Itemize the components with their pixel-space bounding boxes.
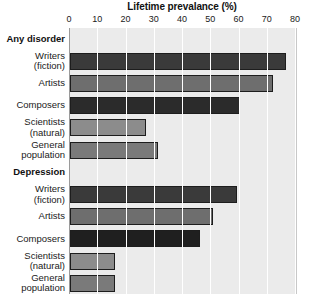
bar [70,97,240,114]
bar [70,208,213,225]
gridline [97,28,98,294]
gridline [182,28,183,294]
bar [70,275,115,292]
bar [70,53,286,70]
x-tick-label: 60 [233,14,243,24]
x-tick-label: 50 [205,14,215,24]
gridline [295,28,296,294]
bar-chart: Lifetime prevalance (%) 0102030405060708… [0,0,313,298]
bar-category-label: Writers (fiction) [34,51,65,72]
bar-category-label: Scientists (natural) [24,251,65,272]
bar-category-label: General population [21,273,65,294]
bar-category-label: Scientists (natural) [24,117,65,138]
bar-category-label: Composers [16,100,65,111]
x-axis-tick-labels: 01020304050607080 [0,14,313,27]
bar-rows [70,28,296,294]
gridline [210,28,211,294]
category-labels: Any disorderWriters (fiction)ArtistsComp… [0,28,67,294]
bar [70,75,273,92]
x-tick-label: 20 [120,14,130,24]
bar-category-label: Artists [39,211,65,222]
bar [70,230,200,247]
group-heading-label: Depression [13,167,65,178]
x-tick-label: 30 [149,14,159,24]
bar-category-label: Artists [39,78,65,89]
x-tick-label: 0 [66,14,71,24]
gridline [239,28,240,294]
bar-category-label: Composers [16,234,65,245]
bar-category-label: Writers (fiction) [34,184,65,205]
group-heading-label: Any disorder [6,34,65,45]
bar [70,142,158,159]
gridline [126,28,127,294]
x-tick-label: 70 [262,14,272,24]
x-tick-label: 40 [177,14,187,24]
bar [70,119,146,136]
chart-title: Lifetime prevalance (%) [69,1,295,12]
plot-area [69,28,297,294]
x-tick-label: 10 [92,14,102,24]
gridline [154,28,155,294]
x-tick-label: 80 [290,14,300,24]
bar [70,253,115,270]
gridline [267,28,268,294]
bar-category-label: General population [21,140,65,161]
